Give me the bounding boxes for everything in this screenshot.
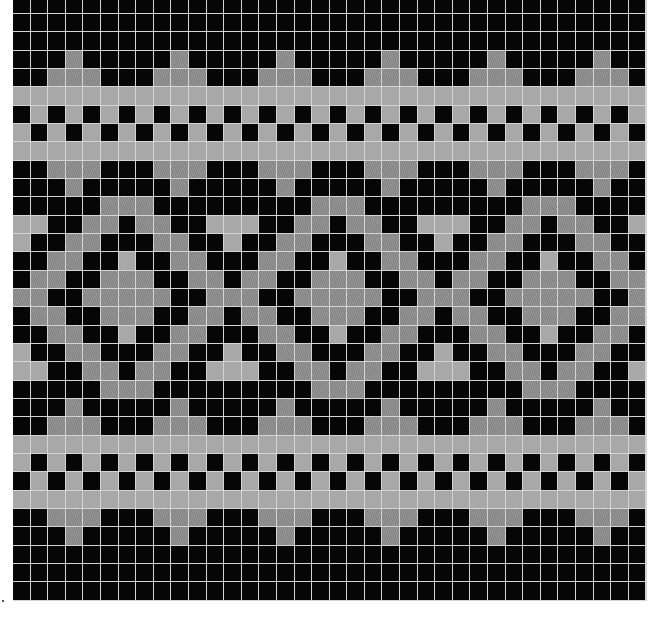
chart-cell <box>277 216 295 234</box>
chart-cell <box>382 399 400 417</box>
chart-cell <box>488 399 506 417</box>
chart-cell <box>48 472 66 490</box>
chart-cell <box>31 234 49 252</box>
chart-cell <box>629 307 647 325</box>
chart-cell <box>101 51 119 69</box>
chart-cell <box>224 564 242 582</box>
chart-cell <box>453 527 471 545</box>
chart-cell <box>382 436 400 454</box>
chart-cell <box>382 14 400 32</box>
chart-cell <box>101 271 119 289</box>
chart-cell <box>31 381 49 399</box>
chart-cell <box>347 381 365 399</box>
chart-cell <box>576 216 594 234</box>
chart-cell <box>101 124 119 142</box>
chart-cell <box>242 197 260 215</box>
chart-cell <box>119 491 137 509</box>
chart-cell <box>523 362 541 380</box>
chart-cell <box>594 546 612 564</box>
chart-cell <box>171 344 189 362</box>
chart-cell <box>523 289 541 307</box>
chart-cell <box>312 0 330 14</box>
chart-cell <box>136 362 154 380</box>
chart-cell <box>242 399 260 417</box>
chart-cell <box>312 179 330 197</box>
chart-cell <box>365 216 383 234</box>
chart-cell <box>594 271 612 289</box>
chart-cell <box>435 271 453 289</box>
chart-cell <box>382 326 400 344</box>
chart-cell <box>171 436 189 454</box>
chart-cell <box>154 197 172 215</box>
chart-cell <box>224 32 242 50</box>
chart-cell <box>470 326 488 344</box>
chart-cell <box>347 417 365 435</box>
chart-cell <box>101 289 119 307</box>
chart-cell <box>48 14 66 32</box>
chart-cell <box>31 32 49 50</box>
chart-cell <box>594 161 612 179</box>
chart-cell <box>242 436 260 454</box>
chart-cell <box>66 106 84 124</box>
chart-cell <box>506 399 524 417</box>
chart-cell <box>629 51 647 69</box>
chart-cell <box>48 87 66 105</box>
chart-cell <box>435 0 453 14</box>
chart-cell <box>312 252 330 270</box>
chart-cell <box>119 344 137 362</box>
chart-cell <box>48 179 66 197</box>
chart-cell <box>101 197 119 215</box>
chart-cell <box>119 289 137 307</box>
chart-cell <box>400 381 418 399</box>
chart-cell <box>488 161 506 179</box>
chart-cell <box>523 106 541 124</box>
chart-cell <box>277 289 295 307</box>
chart-cell <box>365 271 383 289</box>
chart-cell <box>312 546 330 564</box>
chart-cell <box>506 307 524 325</box>
chart-cell <box>594 32 612 50</box>
chart-cell <box>523 234 541 252</box>
chart-cell <box>13 527 31 545</box>
chart-cell <box>629 326 647 344</box>
chart-cell <box>119 564 137 582</box>
chart-cell <box>83 271 101 289</box>
chart-cell <box>101 491 119 509</box>
chart-cell <box>83 0 101 14</box>
chart-cell <box>453 307 471 325</box>
chart-cell <box>259 106 277 124</box>
chart-cell <box>207 69 225 87</box>
chart-cell <box>558 564 576 582</box>
chart-cell <box>207 546 225 564</box>
chart-cell <box>295 307 313 325</box>
chart-viewport <box>0 0 648 602</box>
chart-cell <box>48 234 66 252</box>
chart-cell <box>101 546 119 564</box>
chart-cell <box>330 69 348 87</box>
chart-cell <box>83 509 101 527</box>
chart-cell <box>13 216 31 234</box>
chart-cell <box>259 582 277 600</box>
chart-cell <box>330 179 348 197</box>
chart-cell <box>506 32 524 50</box>
chart-cell <box>13 142 31 160</box>
chart-cell <box>312 87 330 105</box>
chart-cell <box>453 289 471 307</box>
chart-cell <box>119 381 137 399</box>
chart-cell <box>330 417 348 435</box>
chart-cell <box>347 179 365 197</box>
chart-cell <box>576 32 594 50</box>
chart-cell <box>365 362 383 380</box>
chart-cell <box>418 87 436 105</box>
chart-cell <box>31 399 49 417</box>
chart-cell <box>31 216 49 234</box>
chart-cell <box>277 527 295 545</box>
chart-cell <box>259 197 277 215</box>
chart-cell <box>541 472 559 490</box>
chart-cell <box>277 124 295 142</box>
chart-cell <box>523 509 541 527</box>
chart-cell <box>31 491 49 509</box>
chart-cell <box>611 564 629 582</box>
chart-cell <box>629 527 647 545</box>
chart-cell <box>629 381 647 399</box>
